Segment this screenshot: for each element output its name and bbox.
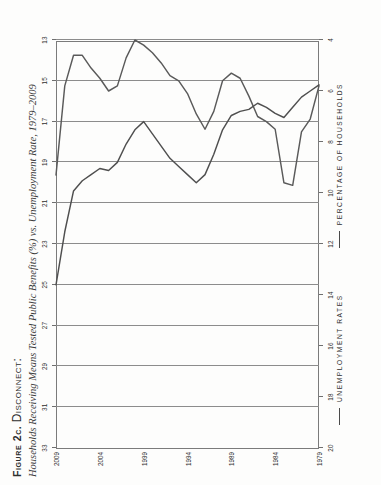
year-tick-label: 1984: [272, 452, 279, 474]
axis-tick-label-bottom: 20: [327, 444, 334, 451]
legend-item-households: PERCENTAGE OF HOUSEHOLDS: [336, 83, 343, 248]
tick-mark-bottom: [319, 447, 323, 448]
axis-tick-label-top: 23: [41, 240, 48, 247]
year-tick-label: 1989: [228, 452, 235, 474]
legend-item-unemployment: UNEMPLOYMENT RATES: [336, 294, 343, 425]
legend-label-households: PERCENTAGE OF HOUSEHOLDS: [336, 83, 343, 225]
legend-swatch-unemployment: [339, 408, 340, 425]
plot-area: 3331292725232119171513 201816141210864 1…: [56, 41, 319, 449]
tick-mark-bottom: [319, 39, 323, 40]
tick-mark-bottom: [319, 396, 323, 397]
axis-tick-label-bottom: 16: [327, 342, 334, 349]
axis-tick-label-top: 27: [41, 322, 48, 329]
year-tick-label: 1999: [140, 452, 147, 474]
axis-tick-label-top: 21: [41, 200, 48, 207]
figure-subtitle: Households Receiving Means Tested Public…: [27, 84, 38, 477]
legend-label-unemployment: UNEMPLOYMENT RATES: [336, 294, 343, 402]
axis-tick-label-bottom: 14: [327, 291, 334, 298]
axis-tick-label-bottom: 8: [327, 140, 334, 144]
tick-mark-bottom: [319, 90, 323, 91]
series-line-households: [56, 85, 319, 285]
figure-number: Figure 2c.: [11, 426, 23, 477]
axis-tick-label-top: 17: [41, 118, 48, 125]
axis-tick-label-top: 33: [41, 444, 48, 451]
legend: UNEMPLOYMENT RATES PERCENTAGE OF HOUSEHO…: [336, 83, 343, 425]
axis-tick-label-top: 13: [41, 36, 48, 43]
axis-tick-label-bottom: 6: [327, 89, 334, 93]
axis-tick-label-top: 31: [41, 404, 48, 411]
series-line-unemployment: [56, 40, 319, 185]
axis-tick-label-top: 25: [41, 281, 48, 288]
year-tick-label: 2004: [96, 452, 103, 474]
axis-tick-label-bottom: 18: [327, 393, 334, 400]
axis-tick-label-top: 19: [41, 159, 48, 166]
tick-mark-bottom: [319, 192, 323, 193]
tick-mark-bottom: [319, 345, 323, 346]
axis-tick-label-top: 29: [41, 363, 48, 370]
year-tick-label: 2009: [53, 452, 60, 474]
tick-mark-bottom: [319, 294, 323, 295]
figure-keyword: Disconnect:: [10, 358, 24, 423]
legend-swatch-households: [339, 231, 340, 248]
figure-canvas: Figure 2c. Disconnect: Households Receiv…: [0, 0, 381, 485]
axis-tick-label-bottom: 10: [327, 189, 334, 196]
year-tick-label: 1994: [184, 452, 191, 474]
data-series-lines: [56, 40, 319, 448]
axis-tick-label-bottom: 12: [327, 240, 334, 247]
tick-mark-bottom: [319, 243, 323, 244]
year-tick-label: 1979: [316, 452, 323, 474]
tick-mark-bottom: [319, 141, 323, 142]
figure-heading: Figure 2c. Disconnect:: [10, 358, 24, 477]
axis-tick-label-bottom: 4: [327, 38, 334, 42]
axis-tick-label-top: 15: [41, 77, 48, 84]
